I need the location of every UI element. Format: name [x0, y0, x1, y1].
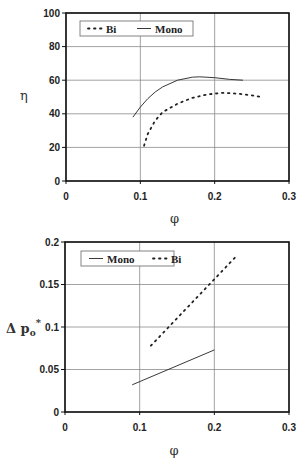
- svg-text:0.2: 0.2: [208, 191, 222, 202]
- plot-frame: [66, 13, 289, 181]
- y-tick-labels: 020406080100: [43, 8, 66, 187]
- legend-entry-mono: Mono: [155, 23, 183, 35]
- y-tick-labels: 00.050.10.150.2: [40, 237, 65, 418]
- svg-text:0.1: 0.1: [133, 191, 147, 202]
- svg-text:0: 0: [54, 176, 60, 187]
- gridlines: [65, 242, 289, 412]
- svg-text:0.2: 0.2: [45, 237, 59, 248]
- legend-entry-bi: Bi: [171, 253, 181, 265]
- x-tick-labels: 00.10.20.3: [63, 181, 296, 202]
- svg-text:0.3: 0.3: [282, 191, 296, 202]
- pressure-chart: 00.050.10.150.200.10.20.3φΔ po*MonoBi: [6, 237, 296, 459]
- legend-entry-mono: Mono: [107, 253, 135, 265]
- svg-text:60: 60: [49, 75, 61, 86]
- y-axis-label: Δ po*: [6, 317, 42, 338]
- legend: MonoBi: [81, 251, 181, 266]
- svg-text:100: 100: [43, 8, 60, 19]
- y-axis-label: η: [20, 88, 28, 103]
- efficiency-chart: 02040608010000.10.20.3φηBiMono: [20, 8, 296, 227]
- series-mono: [133, 77, 243, 117]
- series-bi: [144, 93, 261, 146]
- legend: BiMono: [80, 21, 193, 36]
- svg-text:0.3: 0.3: [282, 422, 296, 433]
- figure: 02040608010000.10.20.3φηBiMono00.050.10.…: [0, 0, 302, 464]
- legend-entry-bi: Bi: [106, 23, 116, 35]
- series-bi: [151, 257, 235, 345]
- svg-text:0: 0: [62, 422, 68, 433]
- series-mono: [132, 350, 214, 385]
- svg-text:0.1: 0.1: [45, 322, 59, 333]
- svg-text:0: 0: [63, 191, 69, 202]
- svg-text:0.2: 0.2: [207, 422, 221, 433]
- svg-text:40: 40: [49, 108, 61, 119]
- svg-text:0.15: 0.15: [40, 279, 60, 290]
- gridlines: [66, 13, 289, 181]
- svg-text:0.1: 0.1: [133, 422, 147, 433]
- svg-text:0: 0: [53, 407, 59, 418]
- x-axis-label: φ: [170, 211, 179, 226]
- x-tick-labels: 00.10.20.3: [62, 412, 296, 433]
- svg-text:80: 80: [49, 41, 61, 52]
- svg-text:0.05: 0.05: [40, 364, 60, 375]
- svg-text:20: 20: [49, 142, 61, 153]
- x-axis-label: φ: [169, 443, 178, 458]
